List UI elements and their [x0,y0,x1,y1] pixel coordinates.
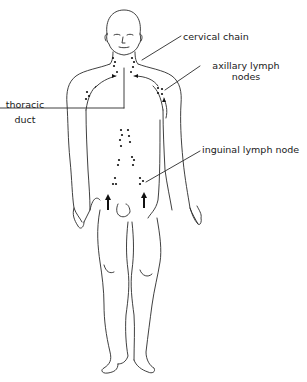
left-leg-outline [98,210,118,373]
axillary-label-line2: nodes [198,71,294,82]
thoracic-label-line2: duct [4,114,46,125]
cervical-chain-label: cervical chain [183,31,249,42]
body-outline-drawing [0,0,307,382]
torso-outline [67,64,110,222]
head-outline [107,10,141,55]
axillary-lymph-nodes-label: axillary lymph nodes [198,60,294,82]
axillary-label-line1: axillary lymph [198,60,294,71]
right-hand [190,206,201,225]
lymphatic-diagram: cervical chain axillary lymph nodes thor… [0,0,307,382]
inguinal-lymph-node-label: inguinal lymph node [202,144,299,155]
pelvis-outline [117,204,130,217]
thoracic-label-line1: thoracic [4,99,46,110]
right-leg-outline [134,218,161,373]
thoracic-duct-label: thoracic duct [4,99,46,125]
